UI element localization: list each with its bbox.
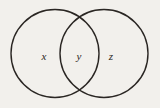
region-label-intersection: y <box>77 51 82 62</box>
region-label-left: x <box>42 51 47 62</box>
region-label-right: z <box>109 51 113 62</box>
venn-diagram-figure: x y z <box>0 0 160 108</box>
